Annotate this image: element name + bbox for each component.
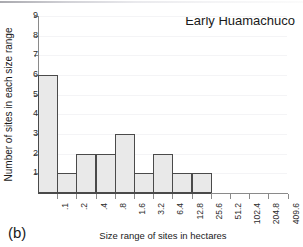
x-tick bbox=[76, 194, 77, 199]
gridline bbox=[38, 75, 287, 76]
x-tick-label: .2 bbox=[80, 203, 89, 210]
bar bbox=[115, 134, 135, 193]
y-tick-label: 6 bbox=[18, 70, 38, 79]
x-tick bbox=[211, 194, 212, 199]
x-tick bbox=[153, 194, 154, 199]
gridline bbox=[38, 55, 287, 56]
x-tick bbox=[249, 194, 250, 199]
gridline bbox=[38, 36, 287, 37]
x-tick bbox=[192, 194, 193, 199]
gridline bbox=[38, 16, 287, 17]
scan-artifact-line bbox=[0, 1, 303, 3]
x-tick bbox=[96, 194, 97, 199]
x-tick bbox=[115, 194, 116, 199]
x-tick bbox=[230, 194, 231, 199]
y-tick-label: 4 bbox=[18, 109, 38, 118]
gridline bbox=[38, 114, 287, 115]
x-axis-title: Size range of sites in hectares bbox=[38, 230, 288, 241]
x-tick bbox=[172, 194, 173, 199]
gridline bbox=[38, 134, 287, 135]
y-tick-label: 8 bbox=[18, 31, 38, 40]
y-tick-label: 9 bbox=[18, 11, 38, 20]
y-tick-label: 1 bbox=[18, 168, 38, 177]
y-tick-label: 3 bbox=[18, 129, 38, 138]
y-tick-label: 2 bbox=[18, 149, 38, 158]
bar bbox=[192, 173, 212, 193]
figure-panel-b: Early Huamachuco Number of sites in each… bbox=[0, 0, 303, 247]
bar bbox=[38, 75, 58, 193]
x-tick-label: 102.4 bbox=[253, 203, 262, 224]
bar bbox=[76, 154, 96, 193]
x-tick bbox=[268, 194, 269, 199]
bar bbox=[153, 154, 173, 193]
y-tick-label: 5 bbox=[18, 90, 38, 99]
gridline bbox=[38, 95, 287, 96]
bar bbox=[96, 154, 116, 193]
bar bbox=[57, 173, 77, 193]
x-tick-label: 3.2 bbox=[157, 203, 166, 215]
x-tick-label: 204.8 bbox=[272, 203, 281, 224]
x-tick-label: 12.8 bbox=[196, 203, 205, 220]
y-axis-title: Number of sites in each size range bbox=[2, 16, 16, 193]
x-axis-line-bars bbox=[38, 192, 211, 194]
x-tick-label: .1 bbox=[61, 203, 70, 210]
bar bbox=[134, 173, 154, 193]
bar bbox=[172, 173, 192, 193]
x-tick bbox=[57, 194, 58, 199]
y-tick-label: 7 bbox=[18, 50, 38, 59]
x-tick-label: 51.2 bbox=[234, 203, 243, 220]
panel-label: (b) bbox=[8, 224, 26, 241]
x-tick-label: 409.6 bbox=[292, 203, 301, 224]
x-tick-label: .8 bbox=[119, 203, 128, 210]
x-tick-label: 1.6 bbox=[138, 203, 147, 215]
x-tick-label: 25.6 bbox=[215, 203, 224, 220]
x-tick bbox=[134, 194, 135, 199]
x-tick-label: .4 bbox=[100, 203, 109, 210]
x-tick bbox=[288, 194, 289, 199]
x-tick-label: 6.4 bbox=[176, 203, 185, 215]
